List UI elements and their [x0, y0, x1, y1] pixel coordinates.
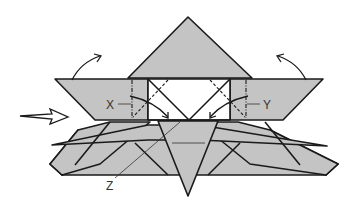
origami-diagram: X Y Z: [0, 0, 347, 206]
central-window: [148, 79, 230, 120]
push-arrow-icon: [20, 109, 68, 124]
left-upper-wing: [55, 79, 148, 120]
right-upper-wing: [230, 79, 323, 120]
top-triangle: [128, 17, 252, 78]
label-y: Y: [263, 98, 271, 112]
right-curved-arrow-icon: [278, 56, 306, 80]
left-curved-arrow-icon: [72, 56, 100, 80]
label-z: Z: [106, 179, 113, 193]
label-x: X: [106, 98, 114, 112]
